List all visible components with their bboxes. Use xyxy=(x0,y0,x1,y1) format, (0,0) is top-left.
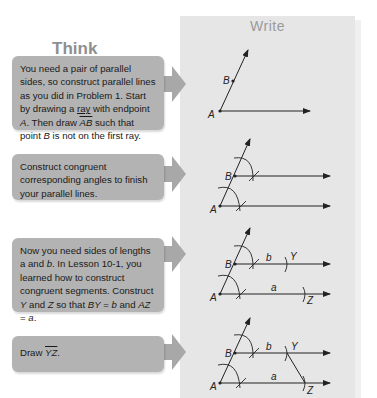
svg-text:b: b xyxy=(266,341,272,352)
svg-text:a: a xyxy=(271,371,277,382)
svg-text:A: A xyxy=(209,381,217,392)
svg-text:B: B xyxy=(225,259,232,270)
write-title: Write xyxy=(180,18,355,34)
svg-text:a: a xyxy=(271,282,277,293)
svg-text:b: b xyxy=(266,252,272,263)
svg-text:A: A xyxy=(209,292,217,303)
diagram-step-4: A B b Y a Z xyxy=(180,312,355,398)
step-3-text: Now you need sides of lengths a and b. I… xyxy=(12,238,164,312)
diagram-step-1: A B xyxy=(180,40,355,120)
svg-text:Y: Y xyxy=(291,341,299,352)
step-4-text: Draw YZ. xyxy=(12,336,164,372)
svg-text:Z: Z xyxy=(306,385,314,396)
diagram-step-3: A B b Y a Z xyxy=(180,222,355,307)
svg-text:Z: Z xyxy=(306,295,314,306)
svg-text:A: A xyxy=(207,109,215,120)
diagram-step-2: A B xyxy=(180,135,355,215)
svg-text:Y: Y xyxy=(290,251,298,262)
svg-text:B: B xyxy=(225,348,232,359)
svg-text:B: B xyxy=(225,171,232,182)
step-1-text: You need a pair of parallel sides, so co… xyxy=(12,56,164,130)
step-2-text: Construct congruent corresponding angles… xyxy=(12,154,164,200)
svg-text:B: B xyxy=(223,75,230,86)
svg-text:A: A xyxy=(209,204,217,215)
page-edge-shadow xyxy=(355,20,361,398)
